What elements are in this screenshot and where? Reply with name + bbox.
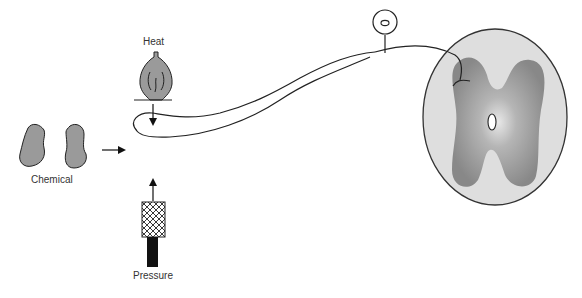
pressure-label: Pressure <box>133 270 173 281</box>
pressure-probe-tip <box>142 202 165 237</box>
heat-label: Heat <box>143 36 164 47</box>
chemical-stimulus <box>20 124 124 168</box>
heat-stimulus <box>134 52 172 124</box>
peripheral-axon <box>137 57 370 137</box>
sensory-neuron <box>134 10 470 137</box>
pressure-stimulus <box>142 180 165 267</box>
molecule-icon <box>65 124 86 168</box>
spinal-cord-cross-section <box>423 29 567 205</box>
central-canal <box>488 114 496 130</box>
molecule-icon <box>20 124 45 166</box>
cell-nucleus <box>381 20 389 25</box>
pressure-probe-handle <box>147 237 158 267</box>
flame-icon <box>140 52 172 100</box>
diagram-canvas <box>0 0 582 298</box>
chemical-label: Chemical <box>31 174 73 185</box>
